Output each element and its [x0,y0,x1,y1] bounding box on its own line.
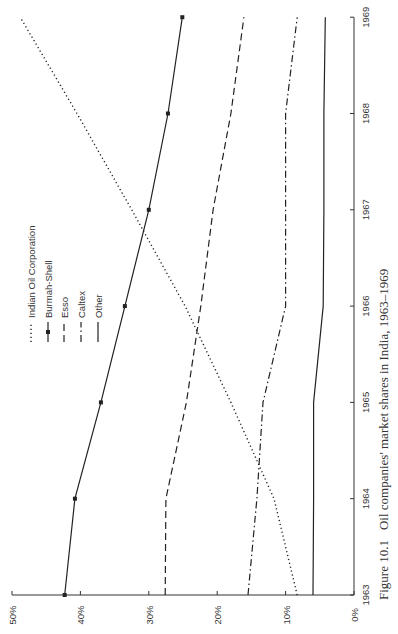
value-tick-label: 0% [349,608,360,622]
square-marker-icon [73,497,77,501]
square-marker-icon [99,400,103,404]
series-caltex [248,17,297,595]
caption-number: Figure 10.1 [376,540,391,600]
market-share-chart: 0%10%20%30%40%50%19631964196519661967196… [0,0,398,634]
year-tick-label: 1963 [360,584,371,605]
series-esso [165,17,244,595]
legend-item: Indian Oil Corporation [26,226,37,342]
value-tick-label: 10% [281,605,292,625]
legend-item: Other [93,294,104,342]
year-tick-label: 1969 [360,7,371,28]
year-tick-label: 1968 [360,103,371,124]
svg-text:Figure 10.1Oil companies' mark: Figure 10.1Oil companies' market shares … [376,269,391,600]
legend-item: Esso [59,297,70,342]
square-marker-icon [147,208,151,212]
square-marker-icon [166,112,170,116]
square-marker-icon [46,330,50,334]
square-marker-icon [180,15,184,19]
value-tick-label: 40% [75,605,86,625]
legend-label: Esso [59,297,70,318]
legend: Indian Oil CorporationBurmah-ShellEssoCa… [26,226,104,342]
year-tick-label: 1964 [360,488,371,509]
legend-item: Caltex [76,291,87,342]
legend-label: Caltex [76,291,87,318]
value-tick-label: 50% [7,605,18,625]
year-tick-label: 1967 [360,199,371,220]
caption-text: Oil companies' market shares in India, 1… [376,269,391,530]
year-tick-label: 1965 [360,392,371,413]
figure-caption: Figure 10.1Oil companies' market shares … [376,269,391,600]
value-tick-label: 20% [212,605,223,625]
legend-label: Indian Oil Corporation [26,226,37,318]
square-marker-icon [63,593,67,597]
series-other [313,17,325,595]
legend-label: Burmah-Shell [43,260,54,318]
square-marker-icon [123,304,127,308]
legend-label: Other [93,294,104,318]
year-tick-label: 1966 [360,296,371,317]
legend-item: Burmah-Shell [43,260,54,342]
value-tick-label: 30% [144,605,155,625]
